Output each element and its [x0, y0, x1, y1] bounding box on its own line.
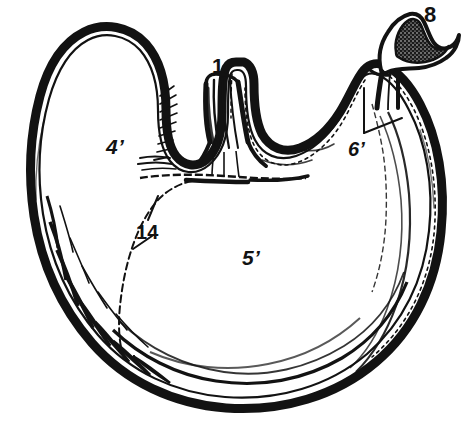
stomach-diagram-svg: [0, 0, 473, 424]
anatomical-figure: 1 8 6’ 4’ 14 5’: [0, 0, 473, 424]
label-5-prime: 5’: [242, 247, 260, 268]
label-14: 14: [136, 222, 159, 242]
label-1: 1: [212, 55, 224, 76]
label-4-prime: 4’: [106, 136, 124, 157]
label-6-prime: 6’: [348, 139, 365, 159]
label-8: 8: [424, 4, 436, 26]
